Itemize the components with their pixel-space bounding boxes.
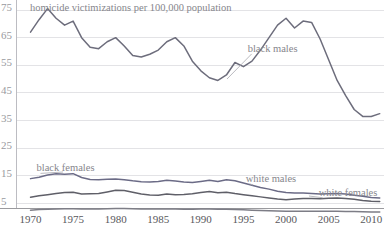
y-tick-label: 65: [1, 30, 12, 41]
y-tick-label: 75: [1, 2, 12, 13]
series-lines-group: [31, 9, 380, 212]
x-tick-label: 1985: [138, 214, 178, 225]
x-tick-label: 1975: [53, 214, 93, 225]
chart-title: homicide victimizations per 100,000 popu…: [30, 2, 232, 13]
series-label-black-males: black males: [248, 43, 298, 54]
x-tick-label: 1995: [223, 214, 263, 225]
series-label-black-females: black females: [36, 162, 94, 173]
homicide-victimization-line-chart: 756555453525155 197019751980198519901995…: [0, 0, 384, 232]
x-tick-label: 1980: [96, 214, 136, 225]
x-tick-label: 2010: [351, 214, 384, 225]
y-tick-label: 25: [1, 140, 12, 151]
y-tick-label: 45: [1, 85, 12, 96]
series-line-white-females: [31, 208, 380, 212]
x-tick-label: 1970: [11, 214, 51, 225]
axis-lines-group: [0, 0, 384, 209]
annotation-leader-line: [227, 54, 252, 79]
x-tick-label: 2005: [309, 214, 349, 225]
x-tick-label: 1990: [181, 214, 221, 225]
x-tick-label: 2000: [266, 214, 306, 225]
series-line-black-males: [31, 9, 380, 117]
y-tick-label: 55: [1, 57, 12, 68]
series-label-white-males: white males: [246, 173, 296, 184]
y-tick-label: 15: [1, 168, 12, 179]
y-tick-label: 35: [1, 113, 12, 124]
y-tick-label: 5: [1, 196, 7, 207]
series-label-white-females: white females: [319, 187, 378, 198]
